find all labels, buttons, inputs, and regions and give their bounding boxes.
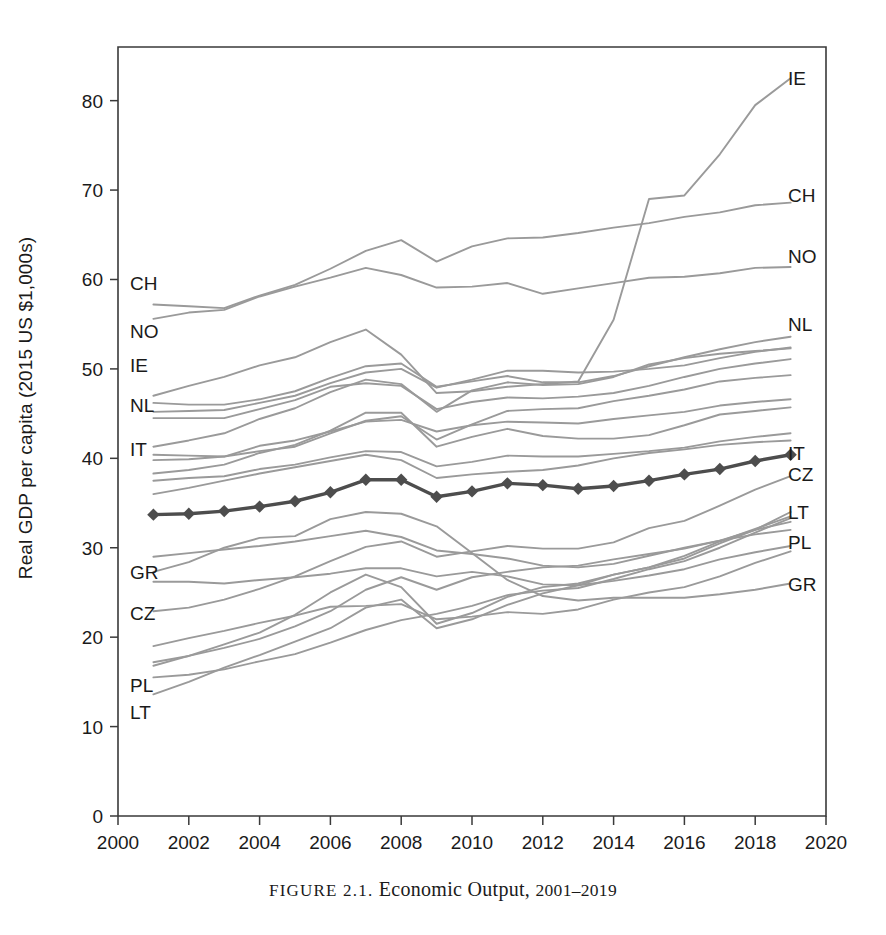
series-marker-it bbox=[501, 477, 513, 489]
series-marker-it bbox=[360, 474, 372, 486]
series-marker-it bbox=[607, 480, 619, 492]
series-label-left-gr: GR bbox=[130, 562, 159, 583]
y-tick-label: 30 bbox=[82, 538, 103, 559]
series-label-left-pl: PL bbox=[130, 675, 153, 696]
y-tick-label: 10 bbox=[82, 717, 103, 738]
series-marker-it bbox=[218, 505, 230, 517]
x-tick-label: 2018 bbox=[734, 832, 776, 853]
series-line-nl bbox=[153, 337, 790, 405]
x-tick-label: 2020 bbox=[805, 832, 847, 853]
series-label-right-gr: GR bbox=[788, 574, 817, 595]
y-tick-label: 80 bbox=[82, 91, 103, 112]
x-tick-label: 2002 bbox=[168, 832, 210, 853]
series-marker-it bbox=[395, 474, 407, 486]
series-marker-it bbox=[643, 474, 655, 486]
series-label-left-ie: IE bbox=[130, 355, 148, 376]
series-line-lt bbox=[153, 512, 790, 694]
series-marker-it bbox=[466, 485, 478, 497]
y-tick-label: 40 bbox=[82, 448, 103, 469]
series-marker-it bbox=[537, 479, 549, 491]
series-label-left-cz: CZ bbox=[130, 603, 156, 624]
series-line-de bbox=[153, 375, 790, 456]
series-marker-it bbox=[714, 463, 726, 475]
series-label-left-ch: CH bbox=[130, 273, 157, 294]
series-line-ie bbox=[153, 78, 790, 395]
series-marker-it bbox=[253, 500, 265, 512]
series-label-left-nl: NL bbox=[130, 395, 154, 416]
y-tick-label: 0 bbox=[92, 806, 103, 827]
y-tick-label: 60 bbox=[82, 269, 103, 290]
x-tick-label: 2010 bbox=[451, 832, 493, 853]
series-label-right-cz: CZ bbox=[788, 464, 814, 485]
series-label-right-pl: PL bbox=[788, 532, 811, 553]
series-marker-it bbox=[324, 486, 336, 498]
plot-frame bbox=[118, 47, 826, 816]
series-label-right-lt: LT bbox=[788, 502, 809, 523]
caption-title: Economic Output, bbox=[379, 878, 530, 900]
series-marker-it bbox=[749, 455, 761, 467]
series-label-right-ch: CH bbox=[788, 185, 815, 206]
series-line-it bbox=[153, 455, 790, 515]
series-label-left-no: NO bbox=[130, 321, 159, 342]
x-tick-label: 2012 bbox=[522, 832, 564, 853]
x-tick-label: 2004 bbox=[238, 832, 281, 853]
series-line-ch bbox=[153, 203, 790, 309]
series-line-fi bbox=[153, 407, 790, 473]
y-tick-label: 20 bbox=[82, 627, 103, 648]
figure-caption: FIGURE 2.1. Economic Output, 2001–2019 bbox=[0, 878, 886, 901]
series-line-be bbox=[153, 399, 790, 460]
y-tick-label: 50 bbox=[82, 359, 103, 380]
figure-container: Real GDP per capita (2015 US $1,000s) 01… bbox=[0, 0, 886, 935]
series-marker-it bbox=[289, 495, 301, 507]
x-tick-label: 2008 bbox=[380, 832, 422, 853]
caption-years: 2001–2019 bbox=[535, 880, 616, 900]
x-tick-label: 2016 bbox=[663, 832, 705, 853]
x-tick-label: 2000 bbox=[97, 832, 139, 853]
series-label-right-it: IT bbox=[788, 443, 805, 464]
caption-figure-number: FIGURE 2.1. bbox=[269, 881, 373, 900]
series-line-pl bbox=[153, 518, 790, 677]
series-line-no bbox=[153, 267, 790, 319]
series-marker-it bbox=[183, 508, 195, 520]
series-label-right-nl: NL bbox=[788, 314, 812, 335]
y-tick-label: 70 bbox=[82, 180, 103, 201]
x-tick-label: 2014 bbox=[592, 832, 635, 853]
series-label-right-ie: IE bbox=[788, 68, 806, 89]
series-marker-it bbox=[430, 491, 442, 503]
series-label-left-it: IT bbox=[130, 439, 147, 460]
series-label-left-lt: LT bbox=[130, 702, 151, 723]
series-marker-it bbox=[147, 508, 159, 520]
series-marker-it bbox=[572, 483, 584, 495]
series-label-right-no: NO bbox=[788, 246, 817, 267]
line-chart: 0102030405060708020002002200420062008201… bbox=[0, 0, 886, 880]
series-marker-it bbox=[678, 468, 690, 480]
x-tick-label: 2006 bbox=[309, 832, 351, 853]
series-line-es bbox=[153, 530, 790, 568]
